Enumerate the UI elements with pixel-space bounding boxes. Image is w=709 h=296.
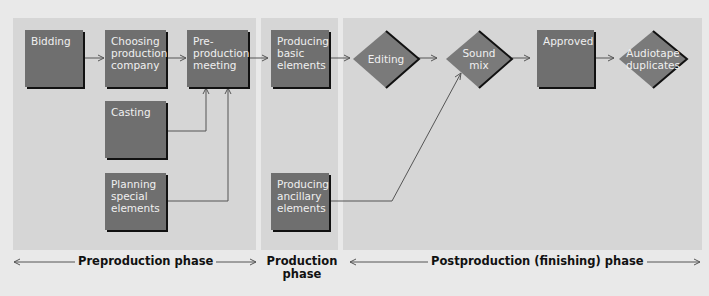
node-label: elements — [277, 202, 329, 214]
production-phase-label: Productionphase — [258, 255, 346, 281]
node-label-line: Audiotape — [619, 47, 687, 59]
node-label: company — [111, 59, 166, 71]
node-label: production — [111, 47, 166, 59]
node-planning-special-elements: Planningspecialelements — [105, 173, 166, 230]
node-casting: Casting — [105, 101, 166, 158]
node-bidding: Bidding — [25, 30, 83, 87]
node-label: Casting — [111, 106, 151, 118]
node-label: Producing — [277, 35, 329, 47]
node-preproduction-meeting: Pre-productionmeeting — [187, 30, 248, 87]
node-approved: Approved — [537, 30, 594, 87]
node-label: Planning — [111, 178, 166, 190]
node-editing: Editing — [353, 29, 419, 89]
node-label: Pre- — [193, 35, 248, 47]
production-label-line: phase — [261, 268, 343, 281]
node-producing-ancillary-elements: Producingancillaryelements — [271, 173, 329, 230]
node-label: production — [193, 47, 248, 59]
preproduction-phase-label: Preproduction phase — [75, 255, 216, 268]
node-label: Approved — [543, 35, 593, 47]
node-label: basic — [277, 47, 329, 59]
node-label: elements — [277, 59, 329, 71]
node-audiotape-duplicates: Audiotapeduplicates — [619, 29, 687, 89]
node-label: Choosing — [111, 35, 166, 47]
node-label: meeting — [193, 59, 248, 71]
node-label: Producing — [277, 178, 329, 190]
node-label-line: duplicates — [619, 59, 687, 71]
node-choosing-production-company: Choosingproductioncompany — [105, 30, 166, 87]
node-label: Audiotapeduplicates — [619, 47, 687, 71]
node-label-line: mix — [446, 59, 512, 71]
node-label: elements — [111, 202, 166, 214]
node-label-line: Sound — [446, 47, 512, 59]
node-producing-basic-elements: Producingbasicelements — [271, 30, 329, 87]
node-sound-mix: Soundmix — [446, 29, 512, 89]
postproduction-phase-label: Postproduction (finishing) phase — [428, 255, 647, 268]
node-label: Bidding — [31, 35, 71, 47]
node-label: Editing — [353, 53, 419, 65]
node-label: ancillary — [277, 190, 329, 202]
node-label: special — [111, 190, 166, 202]
node-label: Soundmix — [446, 47, 512, 71]
